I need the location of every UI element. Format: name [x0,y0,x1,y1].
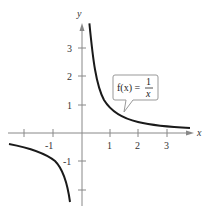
x-axis-label: x [196,127,202,138]
curve-negative-branch [9,144,70,202]
callout-numerator: 1 [146,76,151,87]
x-tick-label: 3 [164,140,169,151]
y-tick-label: 3 [67,43,72,54]
y-axis [80,23,85,206]
y-axis-label: y [76,8,82,19]
function-callout: f(x) = 1 x [113,75,158,112]
x-axis-arrow-icon [186,131,194,136]
chart: -1 1 2 3 3 2 1 -1 x y f(x) = 1 x [0,0,217,216]
x-tick-label: -1 [45,140,53,151]
callout-denominator: x [145,88,151,99]
x-tick-label: 1 [107,140,112,151]
x-axis [8,131,194,136]
y-tick-label: 1 [67,100,72,111]
y-tick-label: 2 [67,71,72,82]
x-tick-label: 2 [135,140,140,151]
callout-label: f(x) = [117,82,140,94]
y-axis-arrow-icon [80,23,85,31]
y-tick-label: -1 [63,156,71,167]
